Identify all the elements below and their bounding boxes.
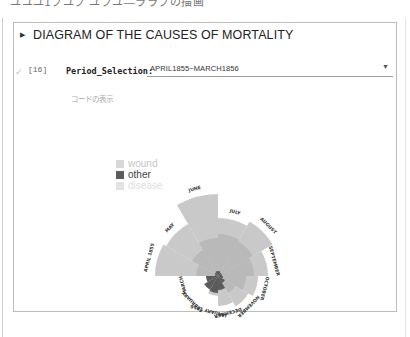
month-label: JULY	[228, 208, 242, 216]
legend-label-other: other	[128, 169, 151, 180]
polar-area-chart: APRIL 1855MAYJUNEJULYAUGUSTSEPTEMBEROCTO…	[0, 0, 410, 337]
legend-swatch-disease	[116, 182, 124, 190]
month-label: JUNE	[187, 185, 201, 193]
legend-item-disease[interactable]: disease	[116, 180, 162, 191]
legend-item-other[interactable]: other	[116, 169, 162, 180]
legend-item-wound[interactable]: wound	[116, 158, 162, 169]
month-label: MAY	[164, 222, 176, 234]
month-label: MARCH	[178, 275, 188, 295]
chart-legend: wound other disease	[116, 158, 162, 191]
legend-swatch-wound	[116, 160, 124, 168]
legend-label-wound: wound	[128, 158, 157, 169]
month-label: SEPTEMBER	[268, 245, 281, 277]
legend-label-disease: disease	[128, 180, 162, 191]
legend-swatch-other	[116, 171, 124, 179]
month-label: APRIL 1855	[143, 243, 155, 273]
